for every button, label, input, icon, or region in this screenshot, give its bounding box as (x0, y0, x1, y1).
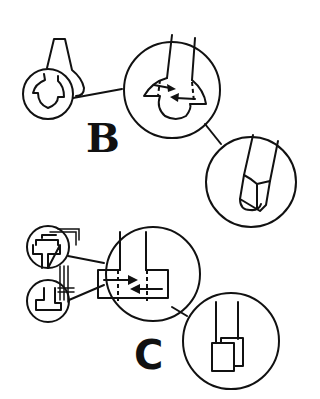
bulb-shape-small (33, 74, 64, 108)
detail-circle-c2 (183, 293, 279, 389)
overview-circle-b (23, 69, 73, 119)
group-label-b: B (86, 118, 120, 158)
connector-b2 (205, 124, 221, 144)
group-b (23, 35, 296, 227)
junction-arrow-left-head (130, 284, 140, 294)
tip-shaft-right (270, 141, 278, 181)
overview-circle-c-bottom (27, 280, 69, 322)
wedge-bracket-shape (47, 39, 84, 96)
tip-shaft-left (244, 135, 253, 175)
shaft-right (192, 38, 195, 80)
connector-c-top (68, 256, 104, 263)
connector-b1 (73, 89, 122, 98)
group-label-c: C (134, 335, 163, 375)
junction-arrow-right-head (128, 275, 138, 285)
plate-front (212, 343, 234, 371)
tip-cap (240, 175, 270, 211)
detail-circle-b2 (206, 137, 296, 227)
t-shape-top (33, 235, 60, 268)
arrow-right-head (167, 84, 176, 92)
junction-box (98, 270, 168, 298)
t-shape-bottom (36, 288, 61, 310)
arrow-left-line (176, 98, 195, 99)
arrow-left-head (170, 93, 179, 102)
